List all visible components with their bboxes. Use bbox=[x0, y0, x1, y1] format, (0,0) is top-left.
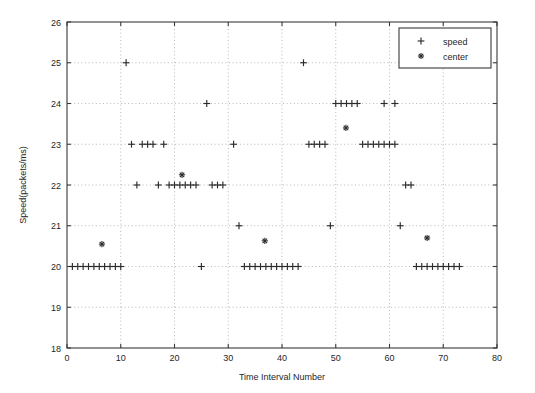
data-point-star bbox=[179, 172, 185, 178]
x-tick-label: 70 bbox=[438, 353, 448, 363]
data-point-star bbox=[99, 241, 105, 247]
chart-figure: 01020304050607080 181920212223242526 spe… bbox=[0, 0, 535, 393]
y-tick-label: 24 bbox=[51, 99, 61, 109]
y-tick-label: 20 bbox=[51, 262, 61, 272]
y-tick-label: 18 bbox=[51, 344, 61, 354]
y-tick-labels: 181920212223242526 bbox=[51, 18, 61, 354]
x-tick-label: 30 bbox=[223, 353, 233, 363]
data-point-star bbox=[343, 125, 349, 131]
y-tick-label: 19 bbox=[51, 303, 61, 313]
x-tick-label: 0 bbox=[64, 353, 69, 363]
y-tick-label: 21 bbox=[51, 221, 61, 231]
x-tick-label: 50 bbox=[331, 353, 341, 363]
x-tick-label: 80 bbox=[492, 353, 502, 363]
y-tick-label: 25 bbox=[51, 58, 61, 68]
legend-label-center: center bbox=[443, 52, 468, 62]
x-tick-label: 60 bbox=[384, 353, 394, 363]
y-tick-label: 22 bbox=[51, 181, 61, 191]
data-point-star bbox=[418, 53, 424, 59]
data-point-star bbox=[262, 238, 268, 244]
y-axis-title: Speed(packets/ms) bbox=[18, 146, 28, 224]
legend-label-speed: speed bbox=[443, 37, 468, 47]
x-tick-label: 10 bbox=[116, 353, 126, 363]
plot-legend: speedcenter bbox=[399, 28, 491, 68]
legend-box bbox=[399, 28, 491, 68]
y-tick-label: 26 bbox=[51, 18, 61, 28]
x-tick-label: 40 bbox=[277, 353, 287, 363]
x-axis-title: Time Interval Number bbox=[239, 372, 325, 382]
scatter-plot: 01020304050607080 181920212223242526 spe… bbox=[0, 0, 535, 393]
x-tick-label: 20 bbox=[169, 353, 179, 363]
data-point-star bbox=[424, 235, 430, 241]
y-tick-label: 23 bbox=[51, 140, 61, 150]
